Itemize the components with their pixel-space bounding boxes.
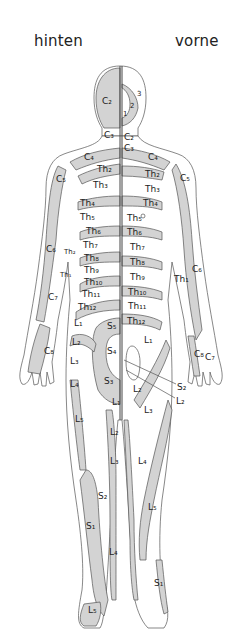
label-front-v3: 3 (137, 90, 141, 98)
label-back-s3: S₃ (104, 376, 114, 386)
label-back-l2: L₂ (72, 337, 81, 347)
label-back-l1-leg: L₁ (112, 397, 121, 407)
label-front-s2: S₂ (177, 382, 187, 392)
label-front-th8: Th₈ (129, 257, 145, 267)
label-back-th2-arm: Th₂ (63, 248, 76, 256)
label-back-c4: C₄ (84, 152, 94, 162)
label-back-th7: Th₇ (82, 240, 98, 250)
label-back-s5: S₅ (107, 321, 117, 331)
label-front-l4: L₄ (138, 456, 147, 466)
label-back-l1: L₁ (74, 318, 83, 328)
label-front-c3: C₃ (124, 143, 134, 153)
label-front-th2: Th₂ (144, 169, 160, 179)
label-front-l1: L₁ (144, 335, 153, 345)
label-back-l5: L₅ (75, 414, 84, 424)
label-front-th4: Th₄ (142, 198, 158, 208)
label-back-s1: S₁ (86, 521, 96, 531)
label-back-s4: S₄ (107, 346, 117, 356)
label-back-c8: C₈ (44, 346, 54, 356)
label-back-l4-leg: L₄ (109, 547, 118, 557)
label-back-l3-leg: L₃ (110, 456, 119, 466)
dermatome-figure: C₂ C₃ C₄ C₅ Th₂ Th₃ Th₄ Th₅ Th₆ Th₇ Th₈ … (0, 0, 242, 638)
label-back-th3: Th₃ (92, 180, 108, 190)
label-back-c7: C₇ (48, 292, 58, 302)
label-front-l3: L₃ (144, 405, 153, 415)
label-front-th9: Th₉ (129, 272, 145, 282)
label-front-th5: Th₅ (126, 213, 142, 223)
label-front-c8: C₈ (194, 349, 204, 359)
label-front-l2-tag: L₂ (176, 396, 185, 406)
label-front-th6: Th₆ (126, 227, 142, 237)
label-back-th8: Th₈ (83, 253, 99, 263)
label-back-l4: L₄ (70, 379, 79, 389)
label-back-l5-foot: L₅ (88, 605, 97, 615)
label-front-th1: Th₁ (173, 274, 189, 284)
label-front-c6: C₆ (192, 264, 202, 274)
label-back-c2: C₂ (102, 96, 112, 106)
label-front-th3: Th₃ (144, 184, 160, 194)
label-front-th10: Th₁₀ (127, 287, 147, 297)
label-back-th6: Th₆ (85, 226, 101, 236)
label-back-c3: C₃ (104, 130, 114, 140)
label-back-c5: C₅ (56, 174, 66, 184)
label-front-l5: L₅ (148, 502, 157, 512)
label-front-c4: C₄ (148, 152, 158, 162)
label-front-c2: C₂ (124, 132, 134, 142)
label-front-v1: 1 (123, 110, 127, 118)
label-back-th12: Th₁₂ (77, 302, 97, 312)
label-back-th11: Th₁₁ (81, 289, 101, 299)
label-back-s2: S₂ (98, 491, 108, 501)
label-back-th5: Th₅ (79, 212, 95, 222)
label-back-l2-leg: L₂ (110, 427, 119, 437)
label-back-c6: C₆ (46, 244, 56, 254)
label-front-th7: Th₇ (129, 242, 145, 252)
label-back-th2: Th₂ (96, 164, 112, 174)
label-front-c7: C₇ (205, 352, 215, 362)
label-back-th10: Th₁₀ (83, 277, 103, 287)
label-back-th1-arm: Th₁ (59, 271, 72, 279)
label-front-th11: Th₁₁ (127, 301, 147, 311)
label-back-th4: Th₄ (79, 198, 95, 208)
label-front-l2: L₂ (133, 384, 142, 394)
label-front-c5: C₅ (180, 173, 190, 183)
label-back-l3: L₃ (70, 356, 79, 366)
label-front-v2: 2 (130, 102, 134, 110)
label-front-s1: S₁ (154, 578, 164, 588)
label-back-th9: Th₉ (83, 265, 99, 275)
label-front-th12: Th₁₂ (126, 316, 146, 326)
